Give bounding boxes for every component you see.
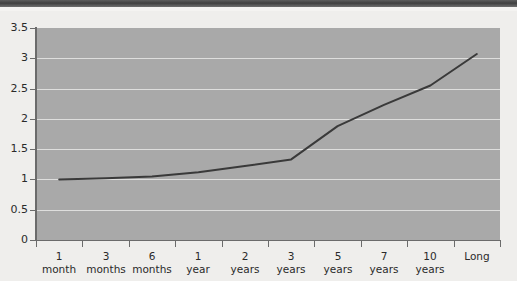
x-axis-label: Long bbox=[447, 250, 507, 263]
x-axis-tick bbox=[222, 241, 223, 247]
x-axis-tick bbox=[407, 241, 408, 247]
x-axis-label-line2: years bbox=[400, 263, 460, 276]
x-axis-tick bbox=[129, 241, 130, 247]
y-axis-tick bbox=[30, 28, 36, 29]
y-axis-tick bbox=[30, 89, 36, 90]
x-axis-tick bbox=[175, 241, 176, 247]
y-axis-tick bbox=[30, 119, 36, 120]
y-axis-label-text: 1 bbox=[0, 173, 28, 184]
y-axis-tick bbox=[30, 58, 36, 59]
y-axis-label-text: 2.5 bbox=[0, 83, 28, 94]
chart-figure: 00.511.522.533.5 1month3months6months1ye… bbox=[0, 0, 517, 281]
y-axis-label: 3 bbox=[0, 52, 28, 64]
x-axis-tick bbox=[454, 241, 455, 247]
y-axis-label-text: 0 bbox=[0, 234, 28, 245]
x-axis-tick bbox=[36, 241, 37, 247]
y-axis-tick bbox=[30, 179, 36, 180]
x-axis-tick bbox=[361, 241, 362, 247]
y-axis-label: 3.5 bbox=[0, 22, 28, 34]
x-axis-tick bbox=[500, 241, 501, 247]
y-axis-label-text: 3 bbox=[0, 52, 28, 63]
line-series-yield bbox=[36, 28, 500, 240]
x-axis-label-line1: Long bbox=[447, 250, 507, 263]
y-axis-tick bbox=[30, 210, 36, 211]
x-axis-tick bbox=[314, 241, 315, 247]
y-axis-label: 0 bbox=[0, 234, 28, 246]
x-axis-tick bbox=[268, 241, 269, 247]
y-axis-label-text: 3.5 bbox=[0, 22, 28, 33]
y-axis-label: 2.5 bbox=[0, 83, 28, 95]
y-axis-label-text: 2 bbox=[0, 113, 28, 124]
scan-edge-gap bbox=[0, 7, 517, 11]
scan-edge-artifact bbox=[0, 0, 517, 7]
plot-area bbox=[36, 28, 500, 240]
y-axis-line bbox=[35, 27, 37, 241]
x-axis-tick bbox=[82, 241, 83, 247]
y-axis-tick bbox=[30, 149, 36, 150]
y-axis-label: 0.5 bbox=[0, 204, 28, 216]
y-axis-label: 1 bbox=[0, 173, 28, 185]
y-axis-label: 2 bbox=[0, 113, 28, 125]
y-axis-label-text: 0.5 bbox=[0, 204, 28, 215]
y-axis-label: 1.5 bbox=[0, 143, 28, 155]
y-axis-label-text: 1.5 bbox=[0, 143, 28, 154]
